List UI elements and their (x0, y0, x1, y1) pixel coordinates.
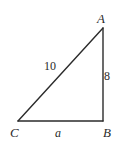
vertex-label-a: A (97, 12, 105, 25)
side-length-vertical-leg: 8 (104, 70, 110, 82)
vertex-label-b: B (103, 126, 111, 139)
side-length-hypotenuse: 10 (44, 60, 56, 72)
geometry-figure: A B C 10 8 a (0, 0, 118, 156)
side-hypotenuse (18, 28, 103, 121)
side-length-base-leg: a (55, 127, 61, 139)
vertex-label-c: C (10, 126, 19, 139)
